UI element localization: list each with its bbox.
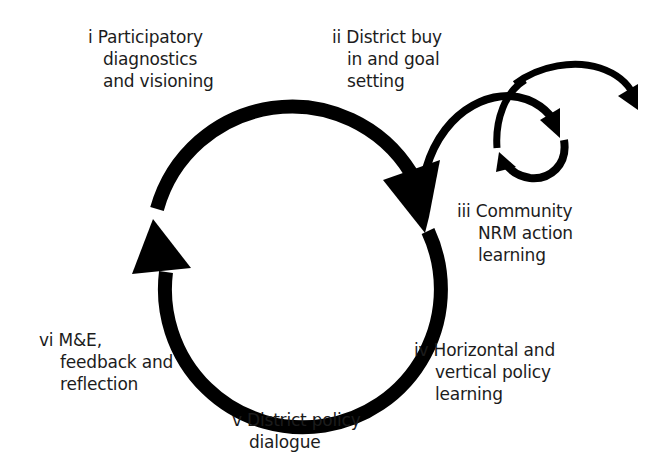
main-cycle-bottom-arrow [132,219,441,427]
stage-iv-line-3: learning [414,383,555,405]
stage-iii-line-1: iii Community [457,200,573,222]
stage-v-line-1: v District policy [232,409,361,431]
stage-ii-line-1: ii District buy [332,26,442,48]
stage-vi-line-2: feedback and [39,351,173,373]
stage-i-line-2: diagnostics [88,48,214,70]
arrowhead-down-right-icon [383,160,440,233]
stage-label-iv: iv Horizontal and vertical policy learni… [414,339,555,405]
stage-iv-line-2: vertical policy [414,361,555,383]
stage-ii-line-3: setting [332,70,442,92]
stage-vi-line-1: vi M&E, [39,329,173,351]
community-loop-arc [420,80,565,205]
stage-iv-line-1: iv Horizontal and [414,339,555,361]
cycle-diagram: i Participatory diagnostics and visionin… [0,0,670,469]
stage-label-ii: ii District buy in and goal setting [332,26,442,92]
stage-i-line-3: and visioning [88,70,214,92]
stage-label-iii: iii Community NRM action learning [457,200,573,266]
main-cycle-top-arrow [157,107,440,233]
stage-i-line-1: i Participatory [88,26,214,48]
stage-v-line-2: dialogue [232,431,361,453]
stage-label-i: i Participatory diagnostics and visionin… [88,26,214,92]
stage-vi-line-3: reflection [39,373,173,395]
stage-ii-line-2: in and goal [332,48,442,70]
stage-label-vi: vi M&E, feedback and reflection [39,329,173,395]
stage-iii-line-3: learning [457,244,573,266]
stage-iii-line-2: NRM action [457,222,573,244]
stage-label-v: v District policy dialogue [232,409,361,453]
arrowhead-up-icon [132,219,191,274]
